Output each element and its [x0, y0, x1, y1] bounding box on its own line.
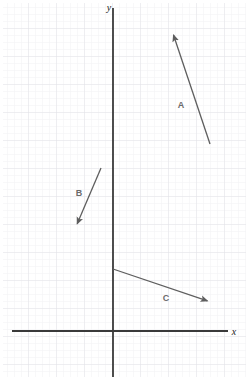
vector-c-label: C — [163, 293, 170, 303]
coordinate-plane: x y A B C — [0, 0, 249, 377]
x-axis-label: x — [231, 326, 237, 337]
grid-lines — [3, 3, 246, 377]
vector-diagram-canvas: x y A B C — [0, 0, 249, 377]
vector-a-label: A — [178, 100, 185, 110]
vector-b-label: B — [76, 188, 83, 198]
y-axis-label: y — [106, 2, 112, 13]
